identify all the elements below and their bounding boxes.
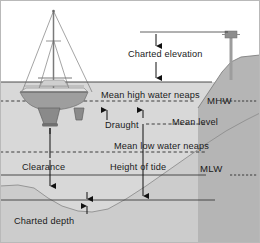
draught-label: Draught	[105, 120, 139, 130]
rudder	[74, 108, 84, 120]
clearance-label: Clearance	[22, 162, 65, 172]
beacon-mast	[230, 38, 233, 80]
cabin-trunk	[40, 80, 68, 86]
mean-level-label: Mean level	[172, 117, 218, 127]
mean-low-water-neaps-label: Mean low water neaps	[114, 141, 209, 151]
height-of-tide-label: Height of tide	[110, 162, 166, 172]
charted-depth-label: Charted depth	[14, 216, 74, 226]
tide-diagram-canvas: Charted elevation Mean high water neaps …	[0, 0, 260, 243]
hull-topsides	[20, 88, 88, 92]
mhw-label: MHW	[207, 95, 233, 106]
keel-bottom	[42, 123, 58, 127]
mlw-label: MLW	[200, 163, 223, 174]
charted-elevation-label: Charted elevation	[128, 49, 203, 59]
mean-high-water-neaps-label: Mean high water neaps	[101, 90, 200, 100]
tide-diagram: Charted elevation Mean high water neaps …	[0, 0, 260, 243]
